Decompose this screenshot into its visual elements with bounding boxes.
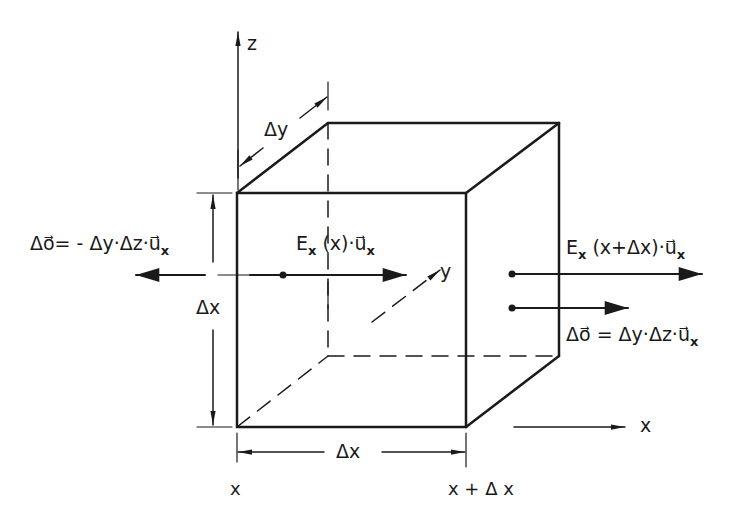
right-area-label: Δo⃗ = Δy·Δz·u⃗x bbox=[566, 325, 698, 348]
position-x-plus-dx-label: x + Δ x bbox=[448, 480, 514, 498]
dx-horizontal-label: Δx bbox=[336, 442, 360, 461]
position-x-label: x bbox=[230, 480, 241, 498]
z-axis-label: z bbox=[247, 34, 257, 53]
field-out-label: Ex (x+Δx)·u⃗x bbox=[566, 238, 685, 261]
x-axis-label: x bbox=[640, 416, 651, 435]
diagram-canvas: z y x Δy Δx Δx x x + Δ x Δo⃗= - Δy·Δz·u⃗… bbox=[0, 0, 751, 519]
cube-front-face bbox=[237, 193, 466, 427]
dx-vertical-label: Δx bbox=[196, 298, 220, 317]
dy-dimension-label: Δy bbox=[264, 120, 288, 139]
left-area-label: Δo⃗= - Δy·Δz·u⃗x bbox=[30, 234, 169, 257]
y-axis bbox=[372, 270, 440, 322]
y-axis-label: y bbox=[440, 262, 451, 281]
field-in-label: Ex (x)·u⃗x bbox=[296, 234, 375, 257]
